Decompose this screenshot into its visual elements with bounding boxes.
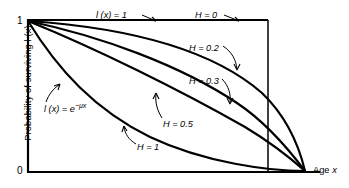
x-axis-title-variable: x: [332, 165, 337, 175]
annotation-lx-exponential-base: l (x) = e: [44, 104, 75, 114]
arrow-lx-exponential: [46, 85, 59, 102]
x-axis-title: Age x: [313, 165, 337, 175]
y-axis-title: Probability of surviving l (x): [23, 3, 33, 163]
annotation-lx-exponential: l (x) = e−μx: [44, 104, 86, 114]
annotation-h-0-2: H = 0.2: [189, 43, 219, 53]
annotation-lx-exponential-exponent: −μx: [75, 102, 86, 109]
curve-h-0-2: [28, 21, 305, 171]
annotation-lx-equals-one: l (x) = 1: [96, 10, 127, 20]
annotation-h-0: H = 0: [195, 10, 217, 20]
y-tick-label-1: 1: [17, 15, 23, 26]
survivorship-curve-figure: Probability of surviving l (x) 1 0 Age x…: [0, 0, 349, 188]
annotation-h-0-3: H = 0.3: [189, 76, 219, 86]
y-tick-label-0: 0: [17, 165, 23, 176]
annotation-h-1: H = 1: [137, 142, 159, 152]
arrow-h-0-3: [222, 79, 230, 103]
annotation-h-0-5: H = 0.5: [163, 119, 193, 129]
x-axis-title-prefix: Age: [313, 165, 332, 175]
plot-area: [0, 0, 349, 188]
